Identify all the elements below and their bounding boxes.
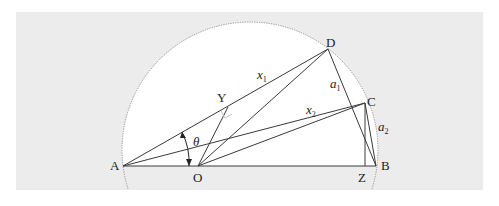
geometry-diagram: A B O D C Y Z x1 x2 a1 a2 θ: [0, 0, 499, 206]
label-point-B: B: [381, 158, 390, 173]
label-point-A: A: [110, 158, 120, 173]
label-point-C: C: [367, 94, 376, 109]
label-point-Z: Z: [358, 170, 366, 185]
below-diameter-panel: [16, 166, 483, 190]
label-theta: θ: [193, 134, 200, 149]
label-point-O: O: [193, 170, 202, 185]
label-point-Y: Y: [217, 90, 227, 105]
label-point-D: D: [326, 35, 335, 50]
